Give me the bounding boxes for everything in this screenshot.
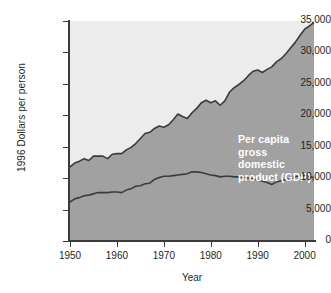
x-tick-label: 1990 xyxy=(238,250,278,261)
y-tick-label: 35,000 xyxy=(273,14,331,25)
x-tick-label: 1950 xyxy=(50,250,90,261)
y-tick xyxy=(63,52,68,53)
y-tick xyxy=(63,21,68,22)
y-tick xyxy=(63,147,68,148)
x-axis-title: Year xyxy=(70,272,314,283)
y-axis-title: 1996 Dollars per person xyxy=(16,23,27,213)
x-tick xyxy=(211,242,212,247)
x-tick-label: 2000 xyxy=(285,250,325,261)
y-tick-label: 5,000 xyxy=(273,203,331,214)
x-tick-label: 1960 xyxy=(97,250,137,261)
x-tick-label: 1980 xyxy=(191,250,231,261)
y-tick-label: 30,000 xyxy=(273,45,331,56)
x-tick xyxy=(258,242,259,247)
y-tick-label: 0 xyxy=(273,234,331,245)
x-tick xyxy=(305,242,306,247)
x-tick xyxy=(164,242,165,247)
y-tick-label: 25,000 xyxy=(273,77,331,88)
x-tick-label: 1970 xyxy=(144,250,184,261)
y-tick-label: 20,000 xyxy=(273,108,331,119)
y-tick xyxy=(63,178,68,179)
y-tick xyxy=(63,241,68,242)
x-tick xyxy=(70,242,71,247)
y-axis-line xyxy=(68,20,70,242)
y-tick xyxy=(63,84,68,85)
chart-container: 1996 Dollars per person Per capita gross… xyxy=(0,0,331,293)
y-tick xyxy=(63,115,68,116)
y-tick-label: 10,000 xyxy=(273,171,331,182)
y-tick-label: 15,000 xyxy=(273,140,331,151)
y-tick xyxy=(63,210,68,211)
x-tick xyxy=(117,242,118,247)
